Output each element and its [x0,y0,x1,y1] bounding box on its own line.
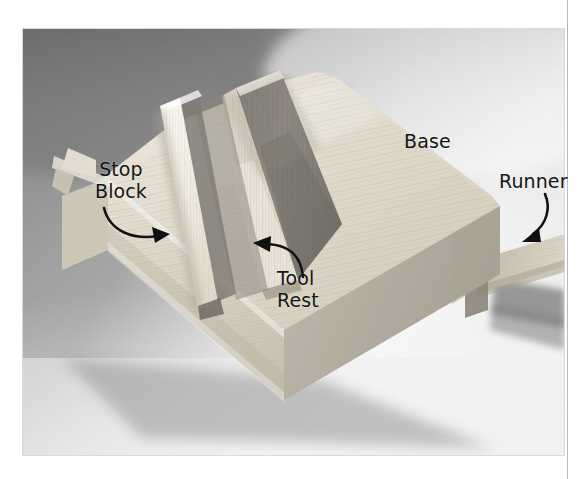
jig-photograph [22,28,565,456]
photo-artwork [22,28,565,456]
page-margin-rule [567,0,568,479]
figure-page: Stop Block Tool Rest Base Runner [0,0,587,479]
